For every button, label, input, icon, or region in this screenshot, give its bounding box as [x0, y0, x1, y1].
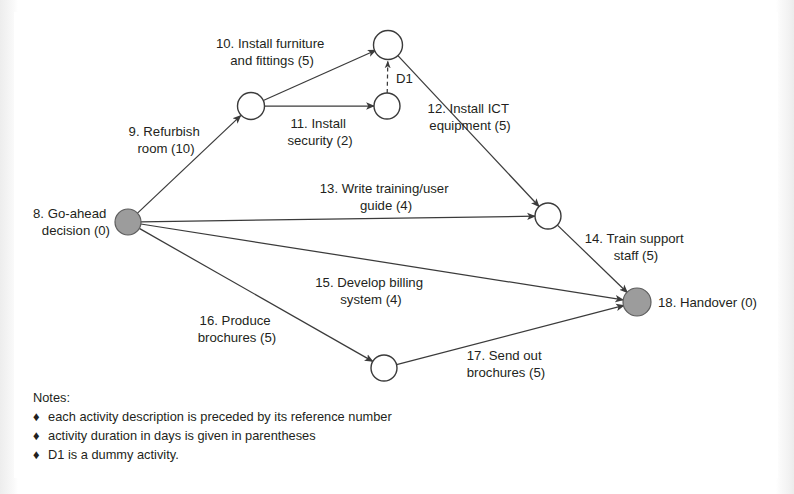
network-diagram-svg: 8. Go-ahead decision (0) 18. Handover (0… — [0, 0, 794, 494]
node-label-18: 18. Handover (0) — [658, 295, 757, 310]
node-label-8-line2: decision (0) — [42, 223, 110, 238]
activity-label-16: 16. Produce brochures (5) — [198, 313, 276, 345]
node-label-8: 8. Go-ahead decision (0) — [33, 206, 110, 238]
diagram-page: 8. Go-ahead decision (0) 18. Handover (0… — [0, 0, 794, 494]
activity-label-14: 14. Train support staff (5) — [585, 231, 688, 263]
notes-item-1: activity duration in days is given in pa… — [48, 428, 315, 443]
activity-label-16-line1: 16. Produce — [200, 313, 271, 328]
activity-label-14-line1: 14. Train support — [585, 231, 684, 246]
activity-label-15: 15. Develop billing system (4) — [315, 275, 426, 307]
notes-bullet-1: ♦ activity duration in days is given in … — [33, 428, 316, 443]
notes-block: Notes: ♦ each activity description is pr… — [33, 390, 392, 462]
activity-label-14-line2: staff (5) — [614, 248, 658, 263]
edge-activity-13[interactable] — [141, 216, 535, 222]
activity-label-9: 9. Refurbish room (10) — [129, 124, 204, 156]
activity-label-17-line1: 17. Send out — [467, 348, 542, 363]
notes-item-0: each activity description is preceded by… — [48, 409, 392, 424]
node-8-go-ahead-decision[interactable] — [115, 209, 141, 235]
notes-bullet-glyph-0: ♦ — [33, 409, 40, 424]
notes-bullet-2: ♦ D1 is a dummy activity. — [33, 447, 179, 462]
activity-label-9-line2: room (10) — [137, 141, 194, 156]
node-event-e[interactable] — [371, 355, 397, 381]
node-label-18-line1: 18. Handover (0) — [658, 295, 757, 310]
notes-bullet-glyph-2: ♦ — [33, 447, 40, 462]
node-label-8-line1: 8. Go-ahead — [33, 206, 106, 221]
dummy-label-d1: D1 — [396, 71, 413, 86]
activity-labels: 9. Refurbish room (10) 10. Install furni… — [129, 36, 688, 380]
activity-label-10-line2: and fittings (5) — [230, 53, 314, 68]
node-event-d[interactable] — [535, 203, 561, 229]
activity-label-12-line2: equipment (5) — [429, 118, 510, 133]
activity-label-17-line2: brochures (5) — [467, 365, 545, 380]
notes-heading: Notes: — [33, 390, 70, 405]
node-event-b[interactable] — [374, 31, 403, 60]
activity-label-9-line1: 9. Refurbish — [129, 124, 200, 139]
node-18-handover[interactable] — [623, 288, 651, 316]
activity-label-15-line1: 15. Develop billing — [315, 275, 423, 290]
activity-label-11-line2: security (2) — [287, 133, 352, 148]
notes-item-2: D1 is a dummy activity. — [48, 447, 179, 462]
activity-label-13-line1: 13. Write training/user — [320, 181, 449, 196]
activity-label-13-line2: guide (4) — [360, 198, 412, 213]
activity-label-11-line1: 11. Install — [290, 116, 346, 131]
activity-label-10: 10. Install furniture and fittings (5) — [216, 36, 328, 68]
node-event-c[interactable] — [374, 93, 400, 119]
notes-bullet-glyph-1: ♦ — [33, 428, 40, 443]
activity-label-12: 12. Install ICT equipment (5) — [428, 101, 513, 133]
activity-label-13: 13. Write training/user guide (4) — [320, 181, 452, 213]
activity-label-16-line2: brochures (5) — [198, 330, 276, 345]
activity-label-11: 11. Install security (2) — [287, 116, 352, 148]
activity-label-15-line2: system (4) — [340, 292, 402, 307]
node-event-a[interactable] — [238, 93, 265, 120]
activity-label-12-line1: 12. Install ICT — [428, 101, 509, 116]
activity-label-10-line1: 10. Install furniture — [216, 36, 325, 51]
activity-label-17: 17. Send out brochures (5) — [467, 348, 545, 380]
notes-bullet-0: ♦ each activity description is preceded … — [33, 409, 392, 424]
edge-dummy-d1[interactable] — [387, 62, 388, 94]
